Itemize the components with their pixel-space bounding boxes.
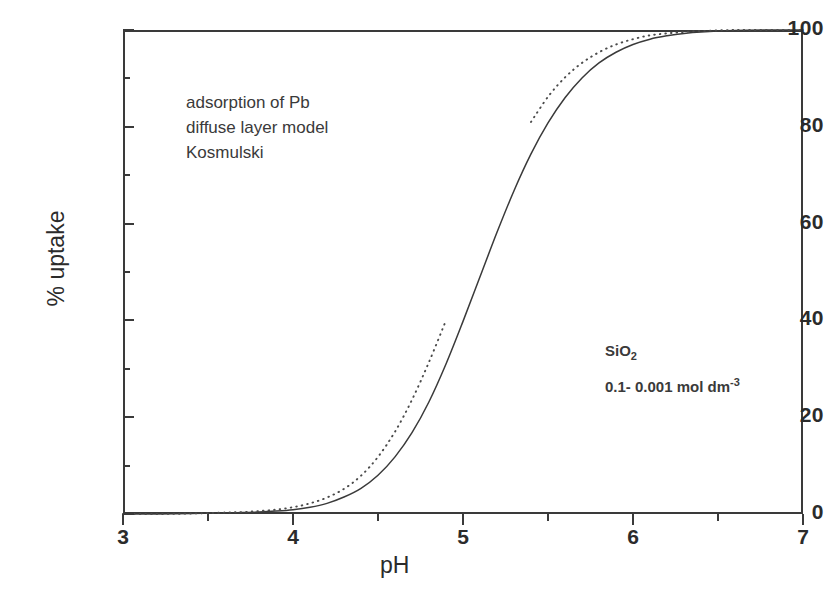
x-tick-major xyxy=(292,514,294,525)
y-tick-minor xyxy=(123,174,130,176)
figure-canvas: 02040608010034567 % uptake pH adsorption… xyxy=(0,0,824,590)
x-tick-major xyxy=(122,514,124,525)
y-tick-major xyxy=(123,319,134,321)
x-tick-label: 7 xyxy=(781,525,824,549)
y-tick-major xyxy=(123,513,134,515)
y-tick-minor xyxy=(123,77,130,79)
y-tick-label: 80 xyxy=(716,113,824,137)
y-tick-major xyxy=(123,223,134,225)
annotation-sample-concentration: 0.1- 0.001 mol dm-3 xyxy=(605,369,740,400)
y-tick-label: 60 xyxy=(716,210,824,234)
x-tick-minor xyxy=(207,514,209,521)
annotation-model: adsorption of Pb diffuse layer model Kos… xyxy=(186,90,328,165)
x-tick-minor xyxy=(377,514,379,521)
y-tick-major xyxy=(123,29,134,31)
x-tick-minor xyxy=(547,514,549,521)
annotation-model-line-2: diffuse layer model xyxy=(186,115,328,140)
y-tick-label: 40 xyxy=(716,306,824,330)
annotation-sample-concentration-exponent: -3 xyxy=(730,376,740,388)
annotation-sample-compound: SiO2 xyxy=(605,338,740,369)
annotation-sample-concentration-text: 0.1- 0.001 mol dm xyxy=(605,378,730,395)
y-tick-label: 0 xyxy=(716,500,824,524)
x-tick-label: 5 xyxy=(441,525,485,549)
x-tick-label: 4 xyxy=(271,525,315,549)
x-tick-label: 3 xyxy=(101,525,145,549)
x-tick-major xyxy=(632,514,634,525)
x-axis-title: pH xyxy=(380,552,409,579)
y-tick-major xyxy=(123,126,134,128)
y-tick-label: 100 xyxy=(716,16,824,40)
annotation-sample: SiO2 0.1- 0.001 mol dm-3 xyxy=(605,338,740,400)
y-tick-label: 20 xyxy=(716,403,824,427)
y-tick-minor xyxy=(123,368,130,370)
y-tick-minor xyxy=(123,465,130,467)
annotation-model-line-3: Kosmulski xyxy=(186,140,328,165)
y-axis-title: % uptake xyxy=(43,159,70,359)
annotation-model-line-1: adsorption of Pb xyxy=(186,90,328,115)
annotation-sample-compound-subscript: 2 xyxy=(631,350,637,362)
x-tick-label: 6 xyxy=(611,525,655,549)
y-tick-major xyxy=(123,416,134,418)
y-tick-minor xyxy=(123,271,130,273)
x-tick-major xyxy=(462,514,464,525)
annotation-sample-compound-base: SiO xyxy=(605,342,631,359)
